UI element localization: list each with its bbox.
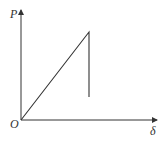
y-axis-label: P: [10, 8, 17, 20]
diagram-canvas: [0, 0, 166, 142]
origin-label: O: [10, 118, 19, 130]
x-axis-label: δ: [150, 125, 156, 137]
load-curve: [21, 32, 89, 120]
